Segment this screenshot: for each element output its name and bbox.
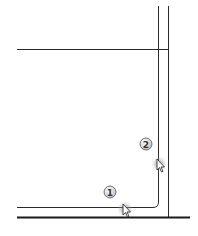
filleted-line [17,6,159,208]
cursor-2-icon [151,156,167,172]
step-2-badge: 2 [140,138,152,150]
step-1-label: 1 [107,188,113,198]
step-2-label: 2 [143,140,149,150]
fillet-diagram: 1 2 [0,0,198,236]
step-1-badge: 1 [104,186,116,198]
cursor-1-icon [117,201,133,217]
